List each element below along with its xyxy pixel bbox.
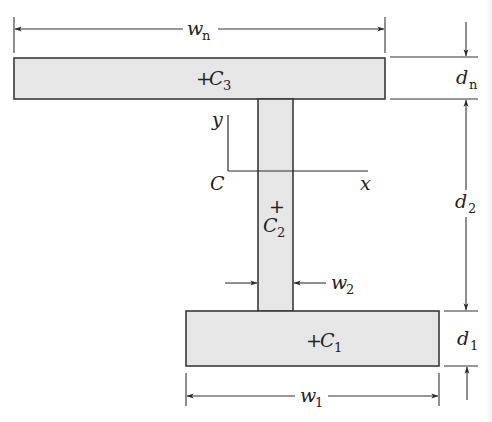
svg-text:C: C <box>263 214 278 236</box>
page-edge-shadow <box>486 0 492 422</box>
svg-text:3: 3 <box>223 78 231 93</box>
svg-text:d: d <box>455 190 467 212</box>
origin-c-label: C <box>210 172 225 194</box>
svg-text:w: w <box>300 384 316 406</box>
svg-text:1: 1 <box>470 338 478 353</box>
dimension-wn: w n <box>14 17 385 53</box>
svg-text:2: 2 <box>468 201 476 216</box>
svg-text:d: d <box>457 327 469 349</box>
svg-text:d: d <box>456 66 468 88</box>
svg-text:w: w <box>331 271 347 293</box>
svg-text:w: w <box>187 17 203 39</box>
dimension-w1: w 1 <box>186 373 439 410</box>
dimension-dn: d n <box>390 22 478 99</box>
svg-text:1: 1 <box>315 395 323 410</box>
dimension-d1: d 1 <box>444 327 478 400</box>
svg-text:1: 1 <box>334 340 342 355</box>
dimension-d2: d 2 <box>444 100 478 311</box>
svg-text:2: 2 <box>277 225 285 240</box>
svg-text:n: n <box>469 77 478 92</box>
svg-text:C: C <box>209 67 224 89</box>
i-beam-cross-section-diagram: + C 3 + C 2 + C 1 y x C w n d n <box>0 0 492 422</box>
y-axis-label: y <box>211 108 223 130</box>
svg-text:2: 2 <box>346 282 354 297</box>
x-axis-label: x <box>360 172 371 194</box>
svg-text:n: n <box>202 28 211 43</box>
svg-text:C: C <box>320 329 335 351</box>
